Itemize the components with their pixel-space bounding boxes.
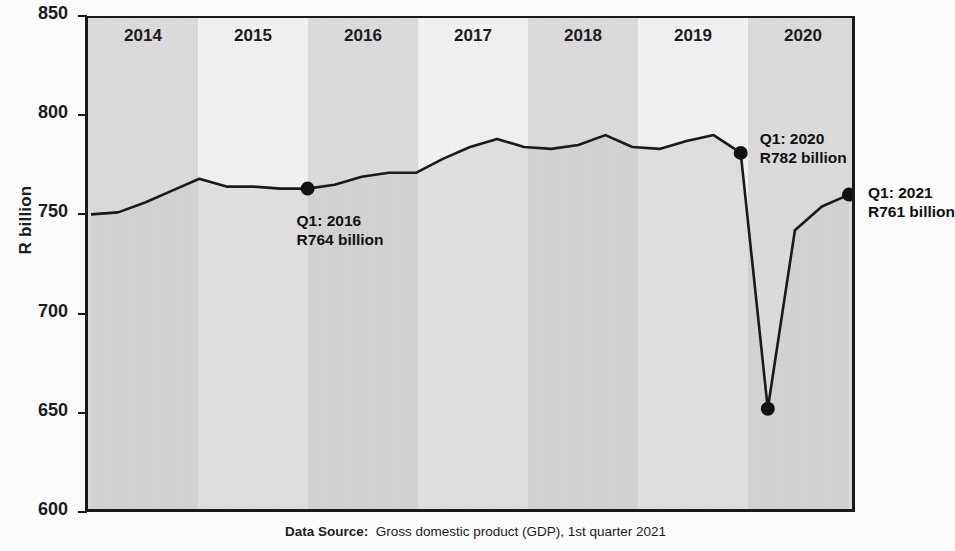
annotation-q1-2020: Q1: 2020R782 billion <box>760 129 847 168</box>
annotation-value: R782 billion <box>760 148 847 167</box>
y-axis-tick-label: 600 <box>12 499 68 520</box>
annotation-q1-2021: Q1: 2021R761 billion <box>868 183 955 222</box>
source-separator: : <box>364 524 369 539</box>
gdp-line-chart <box>88 18 855 512</box>
source-note: Data Source: Gross domestic product (GDP… <box>0 524 951 539</box>
data-marker-2020Q1[interactable] <box>734 146 748 160</box>
y-axis-tick-label: 800 <box>12 102 68 123</box>
y-axis-tick-label: 700 <box>12 301 68 322</box>
annotation-value: R761 billion <box>868 202 955 221</box>
y-axis-tick-label: 650 <box>12 400 68 421</box>
annotation-value: R764 billion <box>297 230 384 249</box>
annotation-title: Q1: 2020 <box>760 129 847 148</box>
y-axis-tick-label: 850 <box>12 3 68 24</box>
annotation-q1-2016: Q1: 2016R764 billion <box>297 211 384 250</box>
y-axis-tick-label: 750 <box>12 201 68 222</box>
data-marker-2016Q1[interactable] <box>301 182 315 196</box>
annotation-title: Q1: 2016 <box>297 211 384 230</box>
source-label: Data Source <box>285 524 364 539</box>
data-series-layer <box>88 18 852 509</box>
plot-area: 2014201520162017201820192020 <box>85 16 855 512</box>
area-fill <box>91 135 849 512</box>
source-text: Gross domestic product (GDP), 1st quarte… <box>376 524 666 539</box>
annotation-title: Q1: 2021 <box>868 183 955 202</box>
data-marker-2020Q2[interactable] <box>761 402 775 416</box>
